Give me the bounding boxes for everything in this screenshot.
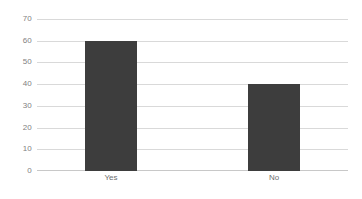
y-tick-label: 40 <box>23 80 32 88</box>
bar-yes[interactable] <box>85 41 137 171</box>
y-tick-label: 10 <box>23 145 32 153</box>
y-tick-label: 70 <box>23 15 32 23</box>
x-tick-label-yes: Yes <box>104 174 117 182</box>
bar-no[interactable] <box>248 84 300 171</box>
x-axis-tick-labels: Yes No <box>37 174 348 190</box>
y-tick-label: 30 <box>23 102 32 110</box>
y-tick-label: 20 <box>23 124 32 132</box>
x-tick-label-no: No <box>269 174 279 182</box>
bar-chart: 70 60 50 40 30 20 10 0 Yes No <box>0 0 362 199</box>
y-tick-label: 50 <box>23 58 32 66</box>
y-axis-tick-labels: 70 60 50 40 30 20 10 0 <box>0 19 32 171</box>
bars-layer <box>37 19 348 171</box>
y-tick-label: 60 <box>23 37 32 45</box>
y-tick-label: 0 <box>27 167 32 175</box>
